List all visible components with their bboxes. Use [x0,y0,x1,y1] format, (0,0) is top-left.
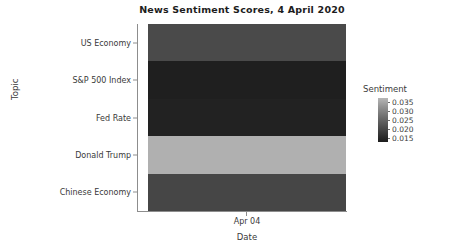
heatmap-plot-area [148,24,346,211]
colorbar-tick-mark [388,138,390,139]
heatmap-cell-sp-500-index[interactable] [148,61,346,98]
x-tick-label-apr-04: Apr 04 [196,217,298,226]
colorbar-gradient [378,98,388,142]
legend-title: Sentiment [363,84,407,94]
colorbar-tick-mark [388,111,390,112]
colorbar-tick-label-0015: 0.015 [392,134,413,143]
page-title: News Sentiment Scores, 4 April 2020 [137,4,347,15]
y-axis-tick-labels: US Economy S&P 500 Index Fed Rate Donald… [0,24,131,211]
colorbar-tick-label-0030: 0.030 [392,107,413,116]
x-axis-tick-mark [246,212,247,216]
heatmap-cell-donald-trump[interactable] [148,136,346,173]
y-tick-label-sp-500-index: S&P 500 Index [72,76,131,85]
heatmap-cell-fed-rate[interactable] [148,99,346,136]
y-tick-label-fed-rate: Fed Rate [96,113,131,122]
colorbar-tick-label-0025: 0.025 [392,116,413,125]
chart-figure: News Sentiment Scores, 4 April 2020 US E… [0,0,458,248]
y-axis-title: Topic [10,79,20,100]
heatmap-cell-chinese-economy[interactable] [148,174,346,211]
colorbar-tick-group: 0.035 0.030 0.025 0.020 0.015 [388,98,454,142]
x-axis-title: Date [177,232,317,242]
y-tick-label-donald-trump: Donald Trump [75,150,131,159]
colorbar-tick-mark [388,120,390,121]
heatmap-cell-us-economy[interactable] [148,24,346,61]
x-axis-spine [137,211,347,212]
colorbar-tick-label-0020: 0.020 [392,125,413,134]
colorbar-tick-label-0035: 0.035 [392,98,413,107]
colorbar-legend: Sentiment 0.035 0.030 0.025 0.020 0.015 [358,84,456,146]
colorbar-tick-mark [388,102,390,103]
y-tick-label-chinese-economy: Chinese Economy [60,188,131,197]
y-tick-label-us-economy: US Economy [81,38,131,47]
colorbar-tick-mark [388,129,390,130]
heatmap-grid [148,24,346,211]
